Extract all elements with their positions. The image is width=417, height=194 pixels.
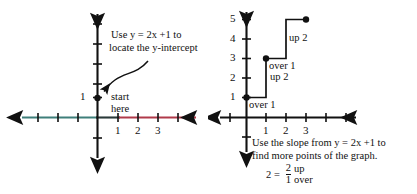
up-2-lower-label: up 2 (270, 71, 288, 83)
right-y-tick-2: 2 (230, 71, 236, 83)
slope-numerator: 2 (286, 163, 291, 174)
right-y-tick-1: 1 (230, 90, 236, 102)
over-1-lower-label: over 1 (249, 99, 276, 111)
over-1-upper-label: over 1 (269, 60, 296, 72)
here-label: here (111, 103, 129, 115)
right-panel: 1 2 3 4 5 1 2 3 over 1 up 2 over 1 up 2 … (208, 0, 417, 194)
right-x-tick-2: 2 (283, 124, 289, 136)
left-x-tick-2: 2 (135, 124, 141, 136)
left-x-tick-1: 1 (115, 124, 121, 136)
start-label: start (111, 91, 129, 103)
right-x-tick-3: 3 (303, 124, 309, 136)
up-2-upper-label: up 2 (289, 32, 307, 44)
annotation-arrow (104, 61, 148, 92)
slope-fraction: 2 1 (286, 163, 291, 185)
right-caption-line2: find more points of the graph. (252, 150, 377, 162)
left-annotation-line1: Use y = 2x +1 to (111, 29, 181, 41)
right-y-tick-3: 3 (230, 51, 236, 63)
right-caption-line1: Use the slope from y = 2x +1 to (252, 137, 386, 149)
slope-denominator: 1 (286, 175, 291, 186)
y-intercept-point (94, 95, 100, 101)
slope-units-bottom: over (294, 174, 313, 185)
left-panel: Use y = 2x +1 to locate the y-intercept … (0, 0, 208, 194)
slope-units-top: up (294, 163, 313, 174)
right-y-tick-4: 4 (230, 32, 236, 44)
point-2-5 (303, 16, 309, 22)
left-annotation-line2: locate the y-intercept (109, 42, 198, 54)
slope-units: up over (294, 163, 313, 185)
slope-equation: 2 = 2 1 up over (266, 163, 313, 185)
left-x-tick-3: 3 (155, 124, 161, 136)
left-y-tick-1: 1 (80, 90, 86, 102)
right-y-tick-5: 5 (230, 12, 236, 24)
slope-equation-lhs: 2 = (266, 169, 280, 180)
right-x-tick-1: 1 (263, 124, 269, 136)
